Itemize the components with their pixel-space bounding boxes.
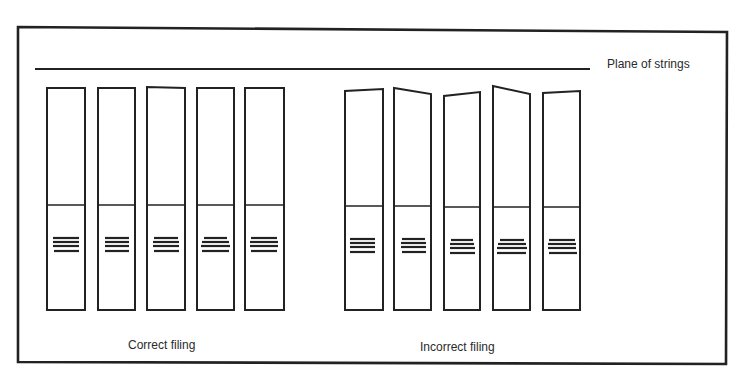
folder-outline	[345, 89, 383, 310]
folder-outline	[147, 87, 185, 310]
folder	[245, 88, 284, 310]
folder	[394, 88, 431, 310]
incorrect-filing-label: Incorrect filing	[420, 340, 495, 354]
correct-filing-group	[47, 87, 284, 310]
folder-outline	[543, 91, 580, 310]
folder	[147, 87, 185, 310]
folders-group	[47, 86, 580, 310]
folder-outline	[444, 92, 480, 310]
folder	[493, 86, 530, 310]
incorrect-filing-group	[345, 86, 580, 310]
folder	[543, 91, 580, 310]
folder	[197, 88, 234, 310]
folder-outline	[197, 88, 234, 310]
folder	[345, 89, 383, 310]
folder	[444, 92, 480, 310]
plane-of-strings-label: Plane of strings	[607, 57, 690, 71]
folder-outline	[47, 88, 85, 310]
folder-outline	[493, 86, 530, 310]
correct-filing-label: Correct filing	[128, 338, 195, 352]
folder	[98, 88, 135, 310]
folder-outline	[394, 88, 431, 310]
folder-outline	[98, 88, 135, 310]
outer-frame	[18, 27, 727, 364]
folder	[47, 88, 85, 310]
folder-outline	[245, 88, 284, 310]
